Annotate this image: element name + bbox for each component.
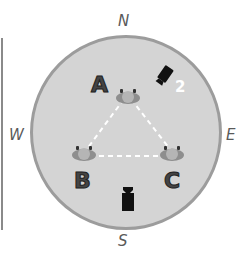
person-icon-b <box>72 146 96 161</box>
position-label-b: B <box>74 168 91 193</box>
person-icon-a <box>116 89 140 104</box>
camera-icon-2 <box>155 65 174 86</box>
position-label-a: A <box>91 72 108 97</box>
diagram-overlay <box>0 0 244 262</box>
position-label-c: C <box>164 168 180 193</box>
triangle-connectors <box>84 99 173 156</box>
connector-a-b <box>84 99 124 153</box>
connector-a-c <box>131 99 173 153</box>
person-icon-c <box>160 146 184 161</box>
camera-icon-bottom <box>122 187 134 211</box>
camera-number-2: 2 <box>175 78 185 96</box>
